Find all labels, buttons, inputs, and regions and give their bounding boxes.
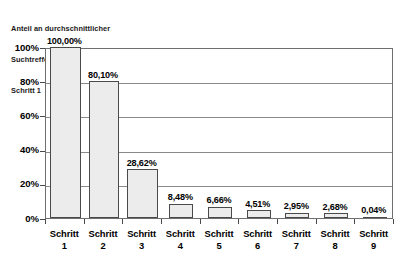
y-axis-tick-label: 40% bbox=[20, 144, 39, 155]
y-axis-tick-label: 20% bbox=[20, 178, 39, 189]
chart-title-line-1: Anteil an durchschnittlicher bbox=[11, 24, 110, 34]
bar-value-label: 0,04% bbox=[343, 205, 405, 215]
x-axis-tick-mark bbox=[45, 219, 46, 224]
x-axis-tick-mark bbox=[161, 219, 162, 224]
bar[interactable] bbox=[363, 217, 387, 218]
x-axis-tick-mark bbox=[84, 219, 85, 224]
x-axis-tick-mark bbox=[316, 219, 317, 224]
x-axis-tick-mark bbox=[200, 219, 201, 224]
bar-value-label: 80,10% bbox=[72, 70, 134, 80]
x-axis-tick-mark bbox=[354, 219, 355, 224]
bar-value-label: 28,62% bbox=[111, 158, 173, 168]
x-axis-tick-mark bbox=[122, 219, 123, 224]
y-axis-tick-label: 80% bbox=[20, 76, 39, 87]
bar-value-label: 100,00% bbox=[33, 36, 95, 46]
bar[interactable] bbox=[169, 204, 193, 219]
x-axis-label-number: 9 bbox=[346, 240, 402, 252]
x-axis-tick-mark bbox=[277, 219, 278, 224]
bar[interactable] bbox=[285, 213, 309, 218]
x-axis-label-word: Schritt bbox=[359, 228, 388, 239]
y-axis-tick-label: 0% bbox=[25, 213, 39, 224]
x-axis-tick-mark bbox=[393, 219, 394, 224]
x-axis-category-label: Schritt9 bbox=[346, 228, 402, 251]
x-axis-tick-mark bbox=[238, 219, 239, 224]
y-axis-tick-label: 60% bbox=[20, 110, 39, 121]
bar[interactable] bbox=[89, 81, 120, 218]
